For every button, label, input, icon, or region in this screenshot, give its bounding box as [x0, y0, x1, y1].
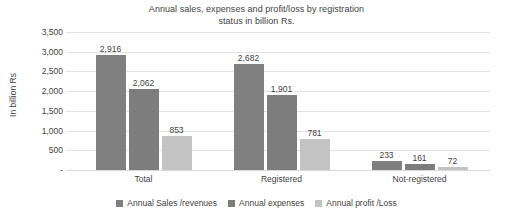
chart-title: Annual sales, expenses and profit/loss b… [0, 4, 513, 27]
y-axis-tick-label: 500 [3, 145, 63, 155]
chart-title-line-2: status in billion Rs. [0, 16, 513, 28]
y-axis-tick-labels: -5001,0001,5002,0002,5003,0003,500 [0, 32, 63, 170]
bar-value-label: 853 [156, 125, 198, 135]
legend-item[interactable]: Annual Sales /revenues [116, 198, 217, 208]
legend-item[interactable]: Annual expenses [228, 198, 304, 208]
bar[interactable] [162, 136, 192, 170]
plot-area: 2,9162,0628532,6821,90178123316172 [66, 32, 490, 170]
bar[interactable] [405, 164, 435, 170]
bar[interactable] [438, 167, 468, 170]
chart-title-line-1: Annual sales, expenses and profit/loss b… [0, 4, 513, 16]
y-axis-tick-label: 2,500 [3, 66, 63, 76]
bar-value-label: 1,901 [261, 84, 303, 94]
bar-value-label: 2,916 [90, 44, 132, 54]
y-axis-tick-label: 3,000 [3, 47, 63, 57]
bar-value-label: 2,682 [228, 53, 270, 63]
legend-item[interactable]: Annual profit /Loss [315, 198, 396, 208]
x-axis-category-label: Not-registered [370, 174, 470, 184]
chart-legend: Annual Sales /revenuesAnnual expensesAnn… [0, 198, 513, 208]
y-axis-tick-label: 3,500 [3, 27, 63, 37]
y-axis-tick-label: 2,000 [3, 86, 63, 96]
bar[interactable] [96, 55, 126, 170]
legend-swatch-icon [116, 200, 123, 207]
chart-container: Annual sales, expenses and profit/loss b… [0, 0, 513, 219]
bar-value-label: 781 [294, 128, 336, 138]
x-axis-category-label: Total [94, 174, 194, 184]
y-axis-tick-label: 1,000 [3, 126, 63, 136]
gridline [66, 170, 490, 171]
bar[interactable] [129, 89, 159, 170]
bar-value-label: 72 [432, 156, 474, 166]
gridline [66, 32, 490, 33]
gridline [66, 71, 490, 72]
bar[interactable] [234, 64, 264, 170]
bar[interactable] [267, 95, 297, 170]
legend-label: Annual Sales /revenues [127, 198, 217, 208]
bar[interactable] [372, 161, 402, 170]
y-axis-tick-label: 1,500 [3, 106, 63, 116]
legend-swatch-icon [315, 200, 322, 207]
legend-label: Annual profit /Loss [326, 198, 396, 208]
legend-swatch-icon [228, 200, 235, 207]
y-axis-tick-label: - [3, 165, 63, 175]
legend-label: Annual expenses [239, 198, 304, 208]
bar[interactable] [300, 139, 330, 170]
bar-value-label: 2,062 [123, 78, 165, 88]
x-axis-category-label: Registered [232, 174, 332, 184]
